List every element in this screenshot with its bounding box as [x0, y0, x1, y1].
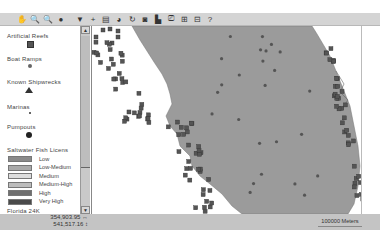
reef-marker[interactable]	[197, 145, 201, 149]
refresh-icon[interactable]: ◕	[113, 14, 125, 25]
reef-marker[interactable]	[108, 48, 112, 52]
overview-icon[interactable]: ⊟	[191, 14, 203, 25]
reef-marker[interactable]	[189, 121, 193, 125]
reef-marker[interactable]	[202, 205, 206, 209]
reef-marker[interactable]	[146, 117, 150, 121]
marina-marker[interactable]	[216, 91, 219, 94]
reef-marker[interactable]	[175, 120, 179, 124]
reef-marker[interactable]	[197, 148, 201, 152]
reef-marker[interactable]	[203, 209, 207, 213]
legend-known-shipwrecks[interactable]: Known Shipwrecks	[7, 79, 61, 85]
reef-marker[interactable]	[139, 106, 143, 110]
reef-marker[interactable]	[116, 35, 120, 39]
reef-marker[interactable]	[140, 102, 144, 106]
reef-marker[interactable]	[146, 113, 150, 117]
reef-marker[interactable]	[340, 121, 344, 125]
reef-marker[interactable]	[189, 166, 193, 170]
reef-marker[interactable]	[114, 87, 118, 91]
marina-marker[interactable]	[220, 83, 223, 86]
reef-marker[interactable]	[188, 178, 192, 182]
reef-marker[interactable]	[329, 47, 333, 51]
marina-marker[interactable]	[252, 182, 255, 185]
measure-icon[interactable]: ⊞	[178, 14, 190, 25]
reef-marker[interactable]	[351, 139, 355, 143]
reef-marker[interactable]	[179, 125, 183, 129]
marina-marker[interactable]	[237, 118, 240, 121]
save-icon[interactable]: ⎚	[165, 14, 177, 25]
legend-license-title[interactable]: Saltwater Fish Licens	[7, 147, 68, 153]
reef-marker[interactable]	[342, 116, 346, 120]
reef-marker[interactable]	[109, 57, 113, 61]
reef-marker[interactable]	[336, 84, 340, 88]
info-icon[interactable]: ●	[55, 14, 67, 25]
reef-marker[interactable]	[120, 77, 124, 81]
marina-marker[interactable]	[259, 48, 262, 51]
reef-marker[interactable]	[94, 40, 98, 44]
marina-marker[interactable]	[316, 174, 319, 177]
zoom-in-icon[interactable]: 🔍	[29, 14, 41, 25]
reef-marker[interactable]	[340, 89, 344, 93]
legend-boat-ramps[interactable]: Boat Ramps	[7, 56, 42, 62]
marina-marker[interactable]	[210, 112, 213, 115]
marina-marker[interactable]	[273, 69, 276, 72]
reef-marker[interactable]	[137, 91, 141, 95]
identify-icon[interactable]: ◙	[139, 14, 151, 25]
reef-marker[interactable]	[177, 133, 181, 137]
reef-marker[interactable]	[138, 114, 142, 118]
rotate-icon[interactable]: ↻	[126, 14, 138, 25]
reef-marker[interactable]	[201, 193, 205, 197]
reef-marker[interactable]	[187, 143, 191, 147]
marina-marker[interactable]	[275, 140, 278, 143]
reef-marker[interactable]	[334, 76, 338, 80]
print-icon[interactable]: ▙	[152, 14, 164, 25]
marina-marker[interactable]	[293, 182, 296, 185]
reef-marker[interactable]	[183, 173, 187, 177]
marina-marker[interactable]	[308, 90, 311, 93]
reef-marker[interactable]	[124, 80, 128, 84]
reef-marker[interactable]	[198, 152, 202, 156]
reef-marker[interactable]	[208, 189, 212, 193]
reef-marker[interactable]	[111, 62, 115, 66]
reef-marker[interactable]	[346, 133, 350, 137]
reef-marker[interactable]	[187, 159, 191, 163]
scroll-up-arrow[interactable]: ▲	[81, 26, 90, 34]
marina-marker[interactable]	[303, 194, 306, 197]
marina-marker[interactable]	[238, 73, 241, 76]
reef-marker[interactable]	[107, 66, 111, 70]
marina-marker[interactable]	[229, 35, 232, 38]
zoom-out-icon[interactable]: 🔍	[42, 14, 54, 25]
reef-marker[interactable]	[345, 128, 349, 132]
marina-marker[interactable]	[264, 49, 267, 52]
legend-marinas[interactable]: Marinas	[7, 104, 30, 110]
reef-marker[interactable]	[201, 188, 205, 192]
reef-marker[interactable]	[94, 35, 98, 39]
reef-marker[interactable]	[185, 130, 189, 134]
marina-marker[interactable]	[264, 84, 267, 87]
reef-marker[interactable]	[147, 121, 151, 125]
reef-marker[interactable]	[101, 28, 105, 32]
reef-marker[interactable]	[347, 143, 351, 147]
marina-marker[interactable]	[260, 173, 263, 176]
map-svg[interactable]	[92, 26, 362, 214]
reef-marker[interactable]	[105, 41, 109, 45]
reef-marker[interactable]	[197, 167, 201, 171]
reef-marker[interactable]	[352, 164, 356, 168]
reef-marker[interactable]	[132, 111, 136, 115]
reef-marker[interactable]	[99, 60, 103, 64]
reef-marker[interactable]	[177, 150, 181, 154]
legend-pumpouts[interactable]: Pumpouts	[7, 124, 36, 130]
reef-marker[interactable]	[335, 104, 339, 108]
reef-marker[interactable]	[166, 125, 170, 129]
reef-marker[interactable]	[108, 27, 112, 31]
marina-marker[interactable]	[270, 43, 273, 46]
reef-marker[interactable]	[353, 181, 357, 185]
scroll-thumb[interactable]	[81, 36, 90, 168]
reef-marker[interactable]	[328, 58, 332, 62]
select-icon[interactable]: ▼	[74, 14, 86, 25]
legend-artificial-reefs[interactable]: Artificial Reefs	[7, 33, 49, 39]
reef-marker[interactable]	[325, 51, 329, 55]
help-icon[interactable]: ?	[204, 14, 216, 25]
reef-marker[interactable]	[343, 103, 347, 107]
reef-marker[interactable]	[119, 51, 123, 55]
reef-marker[interactable]	[120, 59, 124, 63]
